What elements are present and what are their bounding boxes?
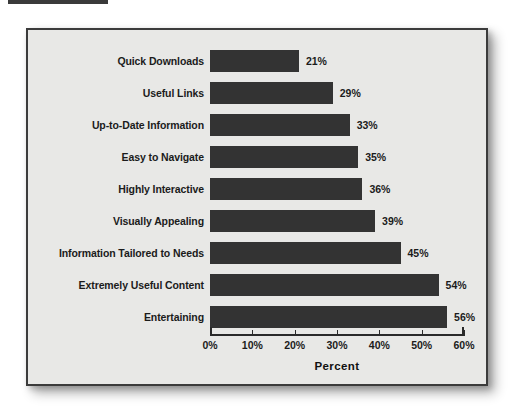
x-axis-tick xyxy=(210,330,211,336)
x-axis-tick xyxy=(422,330,423,336)
chart-figure: Quick Downloads 21% Useful Links 29% Up-… xyxy=(26,28,488,386)
bar-row: Up-to-Date Information 33% xyxy=(28,114,486,136)
bar xyxy=(210,114,350,136)
x-axis-tick-label: 40% xyxy=(369,339,390,351)
value-label: 54% xyxy=(446,274,467,296)
bar-row: Highly Interactive 36% xyxy=(28,178,486,200)
bar-row: Easy to Navigate 35% xyxy=(28,146,486,168)
bar xyxy=(210,50,299,72)
bar xyxy=(210,178,362,200)
category-label: Up-to-Date Information xyxy=(28,114,204,136)
x-axis-tick xyxy=(337,330,338,336)
category-label: Easy to Navigate xyxy=(28,146,204,168)
x-axis-tick-label: 50% xyxy=(411,339,432,351)
top-edge-artifact xyxy=(8,0,108,4)
value-label: 36% xyxy=(369,178,390,200)
category-label: Useful Links xyxy=(28,82,204,104)
bar-row: Information Tailored to Needs 45% xyxy=(28,242,486,264)
x-axis-tick xyxy=(252,330,253,336)
bar xyxy=(210,146,358,168)
bar-row: Entertaining 56% xyxy=(28,306,486,328)
x-axis-tick xyxy=(464,330,465,336)
bar xyxy=(210,274,439,296)
bar-row: Useful Links 29% xyxy=(28,82,486,104)
bar-row: Extremely Useful Content 54% xyxy=(28,274,486,296)
category-label: Extremely Useful Content xyxy=(28,274,204,296)
x-axis-tick-label: 20% xyxy=(284,339,305,351)
value-label: 45% xyxy=(408,242,429,264)
bar xyxy=(210,306,447,328)
x-axis-title: Percent xyxy=(210,360,464,372)
bar xyxy=(210,210,375,232)
x-axis-tick-label: 30% xyxy=(326,339,347,351)
x-axis-tick-label: 0% xyxy=(202,339,217,351)
category-label: Quick Downloads xyxy=(28,50,204,72)
x-axis-tick xyxy=(379,330,380,336)
value-label: 21% xyxy=(306,50,327,72)
x-axis-tick xyxy=(295,330,296,336)
bar xyxy=(210,82,333,104)
bar xyxy=(210,242,401,264)
value-label: 56% xyxy=(454,306,475,328)
plot-area: Quick Downloads 21% Useful Links 29% Up-… xyxy=(28,30,486,384)
value-label: 33% xyxy=(357,114,378,136)
category-label: Entertaining xyxy=(28,306,204,328)
category-label: Visually Appealing xyxy=(28,210,204,232)
value-label: 29% xyxy=(340,82,361,104)
bar-row: Quick Downloads 21% xyxy=(28,50,486,72)
x-axis-tick-label: 10% xyxy=(242,339,263,351)
value-label: 35% xyxy=(365,146,386,168)
x-axis-tick-label: 60% xyxy=(453,339,474,351)
bar-row: Visually Appealing 39% xyxy=(28,210,486,232)
value-label: 39% xyxy=(382,210,403,232)
category-label: Highly Interactive xyxy=(28,178,204,200)
category-label: Information Tailored to Needs xyxy=(28,242,204,264)
